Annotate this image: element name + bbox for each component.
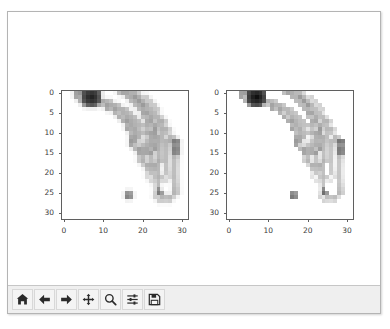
y-tick-label: 5	[214, 109, 219, 117]
y-tick: 10	[224, 133, 227, 134]
y-tick-label: 10	[209, 129, 219, 137]
x-tick-label: 0	[227, 227, 232, 235]
x-tick-label: 0	[62, 227, 67, 235]
x-tick-label: 30	[342, 227, 352, 235]
y-tick: 25	[59, 193, 62, 194]
y-tick: 25	[224, 193, 227, 194]
y-tick: 15	[59, 153, 62, 154]
subplot-right[interactable]: 0510152025300102030	[226, 90, 354, 220]
y-tick-label: 0	[49, 89, 54, 97]
window-frame: 0510152025300102030 0510152025300102030	[7, 11, 381, 314]
x-tick-label: 20	[303, 227, 313, 235]
arrow-right-icon	[60, 293, 73, 306]
y-tick: 5	[59, 113, 62, 114]
x-tick-label: 10	[99, 227, 109, 235]
y-tick-label: 30	[209, 209, 219, 217]
save-button[interactable]	[144, 289, 165, 310]
x-tick-label: 30	[177, 227, 187, 235]
home-icon	[16, 293, 29, 306]
y-tick-label: 20	[44, 169, 54, 177]
x-tick: 20	[143, 219, 144, 222]
configure-subplots-button[interactable]	[122, 289, 143, 310]
navigation-toolbar	[8, 285, 380, 313]
y-tick: 0	[224, 93, 227, 94]
figure-caption	[0, 324, 390, 329]
matplotlib-figure-window: 0510152025300102030 0510152025300102030	[0, 0, 390, 329]
y-tick-label: 25	[44, 189, 54, 197]
y-tick-label: 30	[44, 209, 54, 217]
pan-button[interactable]	[78, 289, 99, 310]
y-tick: 20	[59, 173, 62, 174]
sliders-icon	[126, 293, 139, 306]
y-tick-label: 0	[214, 89, 219, 97]
y-tick: 0	[59, 93, 62, 94]
zoom-button[interactable]	[100, 289, 121, 310]
y-tick-label: 5	[49, 109, 54, 117]
y-tick: 30	[59, 213, 62, 214]
y-tick: 15	[224, 153, 227, 154]
x-tick: 10	[268, 219, 269, 222]
home-button[interactable]	[12, 289, 33, 310]
image-left-bananas	[62, 91, 188, 219]
x-tick: 0	[64, 219, 65, 222]
y-tick-label: 15	[44, 149, 54, 157]
back-button[interactable]	[34, 289, 55, 310]
subplot-left[interactable]: 0510152025300102030	[61, 90, 189, 220]
x-tick: 30	[347, 219, 348, 222]
image-right-bananas	[227, 91, 353, 219]
y-tick: 20	[224, 173, 227, 174]
arrow-left-icon	[38, 293, 51, 306]
floppy-disk-icon	[148, 293, 161, 306]
y-tick: 5	[224, 113, 227, 114]
magnifier-icon	[104, 293, 117, 306]
y-tick: 30	[224, 213, 227, 214]
y-tick: 10	[59, 133, 62, 134]
figure-canvas[interactable]: 0510152025300102030 0510152025300102030	[8, 12, 380, 287]
x-tick-label: 20	[138, 227, 148, 235]
x-tick: 10	[103, 219, 104, 222]
y-tick-label: 25	[209, 189, 219, 197]
move-icon	[82, 293, 95, 306]
forward-button[interactable]	[56, 289, 77, 310]
y-tick-label: 10	[44, 129, 54, 137]
y-tick-label: 15	[209, 149, 219, 157]
x-tick: 30	[182, 219, 183, 222]
y-tick-label: 20	[209, 169, 219, 177]
x-tick-label: 10	[264, 227, 274, 235]
x-tick: 20	[308, 219, 309, 222]
x-tick: 0	[229, 219, 230, 222]
